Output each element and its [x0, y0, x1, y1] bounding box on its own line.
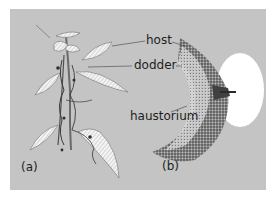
- label-panel-b: (b): [162, 160, 179, 172]
- haustorium-cross-section: [152, 38, 264, 161]
- label-dodder: dodder: [134, 59, 177, 71]
- label-haustorium: haustorium: [130, 110, 198, 122]
- host-plant-illustration: [30, 25, 128, 178]
- figure-illustration: [0, 0, 274, 204]
- label-host: host: [146, 34, 172, 46]
- label-panel-a: (a): [21, 161, 38, 173]
